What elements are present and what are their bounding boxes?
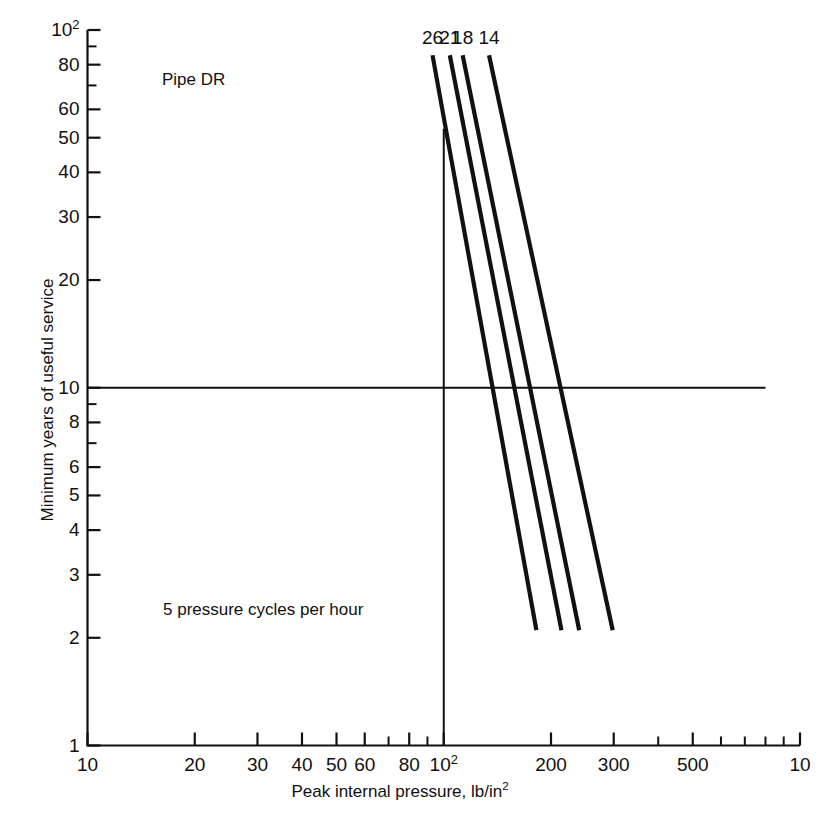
y-tick-label-100: 102: [8, 20, 80, 39]
x-tick-label-500: 500: [658, 755, 728, 774]
y-axis-title: Minimum years of useful service: [38, 240, 58, 560]
plot-canvas: [0, 0, 819, 834]
y-tick-label-80: 80: [8, 55, 80, 74]
x-tick-label-20: 20: [160, 755, 230, 774]
x-tick-label-100: 102: [409, 755, 479, 774]
y-tick-label-40: 40: [8, 162, 80, 181]
x-axis-title: Peak internal pressure, lb/in2: [200, 782, 600, 802]
y-tick-label-30: 30: [8, 207, 80, 226]
y-tick-label-50: 50: [8, 128, 80, 147]
y-tick-label-1: 1: [8, 736, 80, 755]
annotation-pipe-dr: Pipe DR: [162, 70, 225, 90]
x-axis-title-superscript: 2: [502, 780, 508, 792]
x-tick-label-10: 10: [53, 755, 123, 774]
chart-figure: 1028060504030201086543211020304050608010…: [0, 0, 819, 834]
x-tick-label-300: 300: [579, 755, 649, 774]
y-tick-label-60: 60: [8, 99, 80, 118]
y-tick-label-3: 3: [8, 565, 80, 584]
y-tick-label-2: 2: [8, 628, 80, 647]
x-tick-label-200: 200: [516, 755, 586, 774]
x-tick-label-1000: 10: [765, 755, 819, 774]
annotation-pressure-cycles: 5 pressure cycles per hour: [163, 600, 363, 620]
reference-lines: [88, 129, 766, 746]
series-label-14: 14: [469, 27, 509, 49]
data-series: [433, 55, 613, 630]
x-axis-title-text: Peak internal pressure, lb/in: [291, 782, 502, 801]
